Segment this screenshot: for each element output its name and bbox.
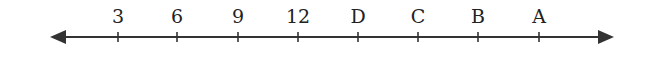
tick-label: A: [531, 5, 546, 27]
right-arrow-icon: [598, 30, 614, 44]
left-arrow-icon: [50, 30, 66, 44]
tick-label: 3: [112, 5, 124, 27]
tick-label: B: [471, 5, 485, 27]
tick-label: D: [350, 5, 365, 27]
tick-label: C: [411, 5, 426, 27]
tick-label: 12: [286, 5, 310, 27]
tick-label: 9: [232, 5, 244, 27]
tick-label: 6: [171, 5, 183, 27]
number-line: 36912DCBA: [0, 0, 648, 68]
